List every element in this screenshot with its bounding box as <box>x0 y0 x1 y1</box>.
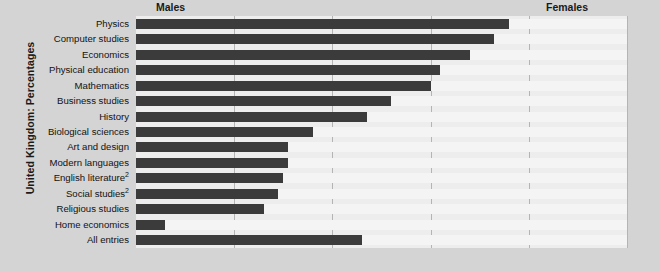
bar-segment-males[interactable] <box>136 96 391 106</box>
bar-row[interactable] <box>136 50 627 60</box>
bar-row[interactable] <box>136 189 627 199</box>
bar-row[interactable] <box>136 127 627 137</box>
legend-label-males: Males <box>156 1 185 13</box>
category-label: Modern languages <box>50 158 129 168</box>
gridline <box>627 16 628 248</box>
category-label-column: PhysicsComputer studiesEconomicsPhysical… <box>0 16 133 248</box>
bar-segment-males[interactable] <box>136 81 431 91</box>
x-axis <box>136 248 627 272</box>
bar-row[interactable] <box>136 34 627 44</box>
category-label: English literature2 <box>54 173 129 183</box>
bar-segment-males[interactable] <box>136 65 440 75</box>
category-label: Art and design <box>67 142 129 152</box>
bar-row[interactable] <box>136 81 627 91</box>
category-label: History <box>99 112 129 122</box>
bar-row[interactable] <box>136 65 627 75</box>
chart-container: United Kingdom: Percentages Males Female… <box>0 0 659 272</box>
plot-area <box>136 16 627 248</box>
bar-segment-males[interactable] <box>136 235 362 245</box>
bar-segment-males[interactable] <box>136 220 165 230</box>
legend-label-females: Females <box>546 1 588 13</box>
category-label: Computer studies <box>54 34 129 44</box>
bar-segment-males[interactable] <box>136 112 367 122</box>
bar-row[interactable] <box>136 235 627 245</box>
category-label: Economics <box>82 50 129 60</box>
bar-row[interactable] <box>136 220 627 230</box>
bar-segment-males[interactable] <box>136 142 288 152</box>
category-label: Social studies2 <box>66 189 129 199</box>
bar-row[interactable] <box>136 204 627 214</box>
bar-segment-males[interactable] <box>136 127 313 137</box>
bar-row[interactable] <box>136 19 627 29</box>
category-label: Business studies <box>57 96 129 106</box>
bar-row[interactable] <box>136 142 627 152</box>
bar-segment-males[interactable] <box>136 204 264 214</box>
bar-segment-males[interactable] <box>136 34 494 44</box>
category-label: Biological sciences <box>48 127 129 137</box>
category-label: All entries <box>87 235 129 245</box>
category-label: Physical education <box>49 65 129 75</box>
bar-segment-males[interactable] <box>136 50 470 60</box>
bar-row[interactable] <box>136 173 627 183</box>
bar-segment-males[interactable] <box>136 173 283 183</box>
bar-segment-males[interactable] <box>136 19 509 29</box>
category-label: Physics <box>96 19 129 29</box>
bar-row[interactable] <box>136 112 627 122</box>
category-label: Religious studies <box>56 204 129 214</box>
bar-row[interactable] <box>136 96 627 106</box>
bar-segment-males[interactable] <box>136 158 288 168</box>
category-label: Home economics <box>55 220 129 230</box>
bar-segment-males[interactable] <box>136 189 278 199</box>
bar-row[interactable] <box>136 158 627 168</box>
category-label: Mathematics <box>75 81 129 91</box>
